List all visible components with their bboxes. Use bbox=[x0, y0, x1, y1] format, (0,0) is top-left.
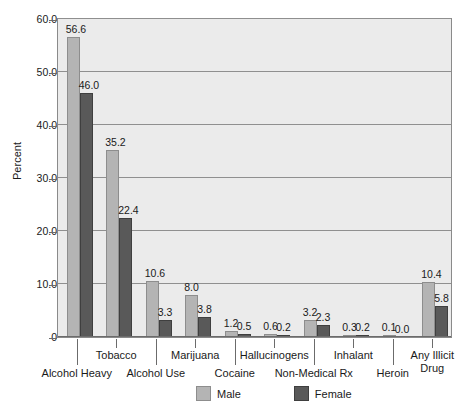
x-axis-label: Alcohol Heavy bbox=[42, 367, 112, 379]
legend-label-male: Male bbox=[217, 388, 241, 400]
bar-value-label: 35.2 bbox=[105, 137, 125, 148]
y-tick-mark bbox=[49, 126, 57, 127]
bar-value-label: 46.0 bbox=[79, 80, 99, 91]
x-axis-line bbox=[58, 336, 451, 337]
chart-legend: Male Female bbox=[196, 386, 352, 401]
x-axis-label: Cocaine bbox=[215, 367, 255, 379]
y-tick-mark bbox=[49, 232, 57, 233]
x-tick-tobacco bbox=[116, 339, 117, 348]
x-axis-label: Non-Medical Rx bbox=[275, 367, 353, 379]
bar-value-label: 5.8 bbox=[434, 293, 449, 304]
x-tick-inhalant bbox=[353, 339, 354, 348]
gridline bbox=[58, 71, 451, 72]
y-tick-label: 20.0 bbox=[22, 226, 57, 236]
y-tick-mark bbox=[49, 338, 57, 339]
x-tick-alcohol-heavy bbox=[77, 339, 78, 365]
bar-value-label: 0.2 bbox=[355, 322, 370, 333]
bar-value-label: 22.4 bbox=[118, 205, 138, 216]
y-tick-mark bbox=[49, 73, 57, 74]
x-axis-label: Marijuana bbox=[171, 349, 219, 361]
bar-value-label: 56.6 bbox=[66, 24, 86, 35]
legend-swatch-female bbox=[294, 386, 309, 401]
bar-male bbox=[422, 282, 435, 337]
bar-value-label: 0.2 bbox=[276, 322, 291, 333]
x-tick-heroin bbox=[393, 339, 394, 365]
bar-value-label: 8.0 bbox=[184, 282, 199, 293]
y-tick-mark bbox=[49, 20, 57, 21]
gridline bbox=[58, 124, 451, 125]
x-axis-label: Any Illicit Drug bbox=[405, 349, 459, 374]
bar-female bbox=[119, 218, 132, 337]
x-tick-non-medical-rx bbox=[314, 339, 315, 365]
x-tick-cocaine bbox=[235, 339, 236, 365]
plot-area: 56.646.035.222.410.63.38.03.81.20.50.60.… bbox=[57, 18, 452, 338]
legend-item-female: Female bbox=[294, 386, 352, 401]
x-axis-label: Inhalant bbox=[334, 349, 373, 361]
y-tick-label: 10.0 bbox=[22, 279, 57, 289]
y-tick-label: 30.0 bbox=[22, 173, 57, 183]
bar-value-label: 10.4 bbox=[421, 269, 441, 280]
y-tick-mark bbox=[49, 285, 57, 286]
x-axis-label: Alcohol Use bbox=[126, 367, 185, 379]
bar-value-label: 0.0 bbox=[395, 324, 410, 335]
bar-chart: Percent 60.050.040.030.020.010.00 56.646… bbox=[0, 0, 469, 415]
bar-female bbox=[435, 306, 448, 337]
legend-item-male: Male bbox=[196, 386, 241, 401]
bar-female bbox=[80, 93, 93, 337]
y-axis-title: Percent bbox=[11, 121, 23, 201]
x-axis-label: Hallucinogens bbox=[240, 349, 309, 361]
y-tick-label: 50.0 bbox=[22, 67, 57, 77]
x-tick-alcohol-use bbox=[156, 339, 157, 365]
x-tick-hallucinogens bbox=[274, 339, 275, 348]
y-tick-label: 40.0 bbox=[22, 120, 57, 130]
x-tick-any-illicit-drug bbox=[432, 339, 433, 348]
bar-value-label: 10.6 bbox=[145, 268, 165, 279]
bar-value-label: 3.8 bbox=[197, 304, 212, 315]
legend-label-female: Female bbox=[315, 388, 352, 400]
bar-value-label: 0.5 bbox=[237, 321, 252, 332]
bar-male bbox=[185, 295, 198, 337]
y-tick-mark bbox=[49, 179, 57, 180]
y-tick-label: 60.0 bbox=[22, 14, 57, 24]
legend-swatch-male bbox=[196, 386, 211, 401]
bar-female bbox=[198, 317, 211, 337]
bar-value-label: 3.3 bbox=[158, 307, 173, 318]
gridline bbox=[58, 18, 451, 19]
bar-value-label: 2.3 bbox=[316, 312, 331, 323]
x-axis-label: Tobacco bbox=[96, 349, 137, 361]
x-axis-label: Heroin bbox=[377, 367, 409, 379]
bar-female bbox=[159, 320, 172, 337]
y-tick-label: 0 bbox=[22, 332, 57, 342]
x-tick-marijuana bbox=[195, 339, 196, 348]
bar-male bbox=[106, 150, 119, 337]
